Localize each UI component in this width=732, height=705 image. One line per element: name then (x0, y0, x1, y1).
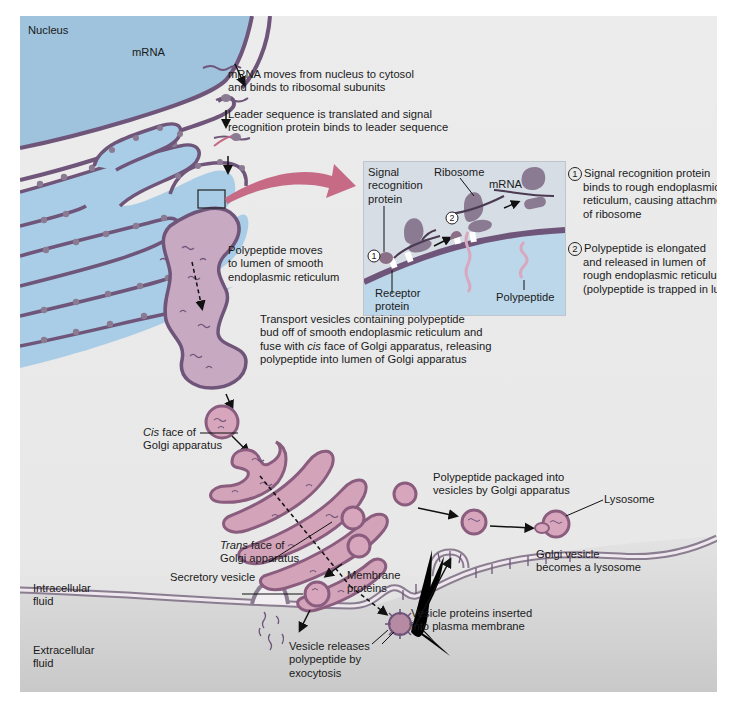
lysosome (535, 511, 569, 537)
label-secretory-vesicle: Secretory vesicle (170, 571, 255, 584)
label-vesicle-proteins-inserted: Vesicle proteins inserted into plasma me… (411, 607, 532, 634)
golgi-vesicle (394, 483, 416, 505)
inset-label-receptor-protein: Receptor protein (375, 287, 420, 314)
inset-marker-2: 2 (448, 212, 456, 224)
label-mrna: mRNA (132, 46, 165, 59)
label-transport-vesicles: Transport vesicles containing polypeptid… (260, 313, 491, 367)
inset-marker-1: 1 (370, 250, 378, 262)
label-polypeptide-moves: Polypeptide moves to lumen of smooth end… (228, 244, 339, 284)
label-trans-face: Trans face of Golgi apparatus (220, 539, 299, 566)
label-step-mrna-moves: mRNA moves from nucleus to cytosol and b… (228, 68, 414, 95)
packaged-vesicle (462, 510, 486, 534)
trans-vesicle (342, 507, 364, 529)
budding-vesicle (348, 535, 370, 557)
label-extracellular-fluid: Extracellular fluid (33, 644, 95, 671)
label-golgi-vesicle-becomes-lysosome: Golgi vesicle becomes a lysosome (536, 548, 641, 575)
label-polypeptide-packaged: Polypeptide packaged into vesicles by Go… (433, 471, 570, 498)
secretory-vesicle (305, 582, 329, 606)
label-step-leader-sequence: Leader sequence is translated and signal… (228, 108, 448, 135)
label-lysosome: Lysosome (604, 493, 655, 506)
label-nucleus: Nucleus (28, 24, 68, 37)
smooth-endoplasmic-reticulum (163, 208, 246, 388)
inset-label-signal-recognition-protein: Signal recognition protein (368, 166, 423, 206)
inset-label-mrna: mRNA (489, 178, 522, 191)
diagram-frame: 1 2 Signal recognition protein Ribosome … (20, 16, 717, 692)
note-2-marker: 2 (568, 242, 582, 256)
inset-label-polypeptide: Polypeptide (496, 291, 554, 304)
note-1-marker: 1 (568, 167, 582, 181)
inset-panel: 1 2 Signal recognition protein Ribosome … (363, 161, 566, 316)
label-intracellular-fluid: Intracellular fluid (33, 582, 91, 609)
label-membrane-proteins: Membrane proteins (347, 569, 400, 596)
inset-label-ribosome: Ribosome (434, 166, 484, 179)
note-1: 1Signal recognition protein binds to rou… (568, 167, 717, 221)
label-cis-face: Cis face of Golgi apparatus (143, 426, 222, 453)
note-2: 2Polypeptide is elongated and released i… (568, 242, 717, 296)
label-vesicle-releases: Vesicle releases polypeptide by exocytos… (289, 640, 370, 680)
